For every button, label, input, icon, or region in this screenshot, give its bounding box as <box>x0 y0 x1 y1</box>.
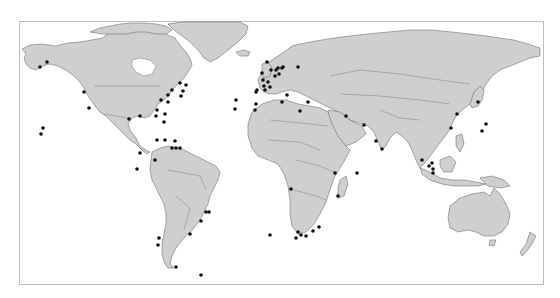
indonesia <box>420 168 486 186</box>
location-marker <box>154 114 158 118</box>
location-marker <box>153 158 157 162</box>
location-marker <box>166 93 170 97</box>
location-marker <box>427 164 431 168</box>
location-marker <box>184 83 188 87</box>
location-marker <box>276 66 280 70</box>
location-marker <box>263 88 267 92</box>
location-marker <box>280 66 284 70</box>
location-marker <box>181 89 185 93</box>
location-marker <box>156 243 160 247</box>
location-marker <box>431 171 435 175</box>
location-marker <box>333 171 337 175</box>
location-marker <box>344 114 348 118</box>
location-marker <box>294 236 298 240</box>
location-marker <box>178 81 182 85</box>
location-marker <box>207 210 211 214</box>
location-marker <box>138 151 142 155</box>
location-marker <box>430 161 434 165</box>
location-marker <box>317 225 321 229</box>
landmasses <box>22 22 540 268</box>
location-marker <box>233 107 237 111</box>
location-marker <box>45 60 49 64</box>
location-marker <box>41 126 45 130</box>
location-marker <box>266 80 270 84</box>
location-marker <box>431 167 435 171</box>
location-marker <box>484 122 488 126</box>
location-marker <box>269 68 273 72</box>
location-marker <box>199 219 203 223</box>
australia <box>448 188 510 236</box>
location-marker <box>157 236 161 240</box>
philippines <box>456 134 464 152</box>
location-marker <box>336 194 340 198</box>
location-marker <box>127 117 131 121</box>
location-marker <box>39 132 43 136</box>
location-marker <box>285 93 289 97</box>
location-marker <box>268 85 272 89</box>
location-marker <box>289 187 293 191</box>
world-map <box>0 0 560 298</box>
location-marker <box>480 129 484 133</box>
location-marker <box>179 94 183 98</box>
location-marker <box>38 65 42 69</box>
location-marker <box>306 100 310 104</box>
location-marker <box>138 114 142 118</box>
location-marker <box>265 60 269 64</box>
south-america <box>150 146 220 268</box>
borneo <box>440 156 456 172</box>
location-marker <box>262 84 266 88</box>
location-marker <box>178 146 182 150</box>
location-marker <box>135 167 139 171</box>
location-marker <box>261 78 265 82</box>
location-marker <box>455 112 459 116</box>
location-marker <box>170 146 174 150</box>
location-marker <box>273 74 277 78</box>
location-marker <box>296 230 300 234</box>
location-marker <box>311 229 315 233</box>
location-marker <box>298 109 302 113</box>
arctic-islands <box>90 23 172 34</box>
location-marker <box>260 71 264 75</box>
location-marker <box>355 171 359 175</box>
location-marker <box>155 138 159 142</box>
location-marker <box>163 138 167 142</box>
location-marker <box>234 98 238 102</box>
location-marker <box>159 98 163 102</box>
location-marker <box>299 233 303 237</box>
location-marker <box>476 100 480 104</box>
location-marker <box>296 65 300 69</box>
location-marker <box>174 265 178 269</box>
location-marker <box>374 139 378 143</box>
tasmania <box>489 240 496 246</box>
location-marker <box>199 273 203 277</box>
location-marker <box>174 146 178 150</box>
location-marker <box>87 106 91 110</box>
location-marker <box>277 72 281 76</box>
location-marker <box>380 147 384 151</box>
location-marker <box>163 112 167 116</box>
location-marker <box>304 234 308 238</box>
location-marker <box>254 90 258 94</box>
location-marker <box>280 100 284 104</box>
new-zealand <box>520 232 536 256</box>
location-marker <box>162 120 166 124</box>
madagascar <box>338 176 348 198</box>
location-marker <box>166 100 170 104</box>
location-marker <box>268 233 272 237</box>
location-marker <box>254 102 258 106</box>
new-guinea <box>480 176 510 188</box>
iceland <box>236 50 250 56</box>
location-marker <box>362 123 366 127</box>
location-marker <box>253 108 257 112</box>
location-marker <box>188 232 192 236</box>
north-america <box>22 27 192 154</box>
location-marker <box>173 139 177 143</box>
location-marker <box>449 126 453 130</box>
location-marker <box>170 88 174 92</box>
location-marker <box>82 90 86 94</box>
location-marker <box>420 158 424 162</box>
location-marker <box>155 108 159 112</box>
